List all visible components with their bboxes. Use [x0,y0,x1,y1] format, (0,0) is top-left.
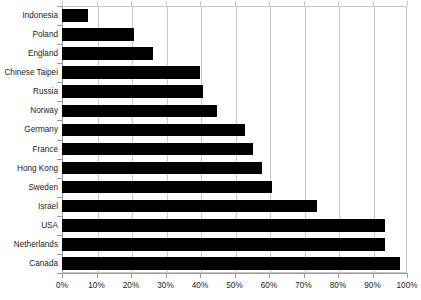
x-axis-tick [62,273,63,278]
x-axis-top-tick [166,1,167,6]
x-axis-tick [338,273,339,278]
x-axis-top-tick [131,1,132,6]
y-axis-tick [57,216,62,217]
bar-row [62,140,407,159]
x-axis-top-tick [97,1,98,6]
x-axis-top-tick [338,1,339,6]
bar-norway [62,105,217,118]
x-axis-top-tick [235,1,236,6]
y-axis-tick [57,120,62,121]
y-axis-tick [57,254,62,255]
bar-row [62,197,407,216]
x-axis-top-tick [407,1,408,6]
x-axis-tick [166,273,167,278]
bar-row [62,101,407,120]
bar-row [62,254,407,273]
y-axis-labels: IndonesiaPolandEnglandChinese TaipeiRuss… [0,6,58,273]
bar-series [62,6,407,273]
y-axis-label: Germany [24,120,58,139]
x-axis-label: 30% [157,281,173,290]
x-axis-label: 0% [56,281,68,290]
y-axis-tick [57,63,62,64]
bar-chinese-taipei [62,66,200,79]
bar-row [62,63,407,82]
bar-row [62,216,407,235]
y-axis-label: USA [41,216,58,235]
y-axis-label: Norway [30,101,58,120]
y-axis-tick [57,178,62,179]
x-axis-top-tick [62,1,63,6]
bar-row [62,44,407,63]
bar-indonesia [62,9,88,22]
bar-canada [62,257,400,270]
bar-row [62,178,407,197]
y-axis-label: Canada [29,254,58,273]
y-axis-label: France [33,140,58,159]
y-axis-tick [57,159,62,160]
y-axis-tick [57,140,62,141]
bar-row [62,82,407,101]
x-axis-tick [235,273,236,278]
y-axis-label: Israel [38,197,58,216]
x-axis-label: 50% [226,281,242,290]
bar-france [62,143,253,156]
y-axis-tick [57,25,62,26]
x-axis-label: 90% [364,281,380,290]
x-axis-tick [131,273,132,278]
y-axis-label: Poland [33,25,59,44]
bar-netherlands [62,238,385,251]
bar-poland [62,28,134,41]
x-axis-top-tick [269,1,270,6]
y-axis-label: Netherlands [14,235,58,254]
y-axis-tick [57,197,62,198]
bar-row [62,235,407,254]
y-axis-label: Indonesia [22,6,58,25]
bar-row [62,159,407,178]
x-axis-label: 100% [397,281,418,290]
x-axis-top-tick [304,1,305,6]
bar-row [62,120,407,139]
x-axis-label: 10% [88,281,104,290]
y-axis-label: Hong Kong [17,159,58,178]
bar-germany [62,124,245,137]
bar-israel [62,200,317,213]
bar-russia [62,85,203,98]
y-axis-label: Sweden [28,178,58,197]
y-axis-tick [57,235,62,236]
x-axis-top-tick [200,1,201,6]
bar-row [62,6,407,25]
bar-usa [62,219,385,232]
x-axis-tick [407,273,408,278]
y-axis-tick [57,44,62,45]
x-axis-tick [373,273,374,278]
bar-england [62,47,153,60]
x-axis-tick [269,273,270,278]
bar-sweden [62,181,272,194]
bar-hong-kong [62,162,262,175]
y-axis-label: Russia [33,82,58,101]
y-axis-tick [57,101,62,102]
bar-row [62,25,407,44]
x-axis-label: 80% [330,281,346,290]
x-axis-label: 20% [123,281,139,290]
x-axis-tick [97,273,98,278]
x-axis-label: 70% [295,281,311,290]
y-axis-tick [57,82,62,83]
y-axis-tick [57,6,62,7]
x-axis-top-tick [373,1,374,6]
x-axis-label: 60% [261,281,277,290]
x-axis-label: 40% [192,281,208,290]
x-axis-tick [200,273,201,278]
y-axis-label: Chinese Taipei [4,63,58,82]
y-axis-label: England [28,44,58,63]
bar-chart: IndonesiaPolandEnglandChinese TaipeiRuss… [0,0,421,300]
x-axis-tick [304,273,305,278]
